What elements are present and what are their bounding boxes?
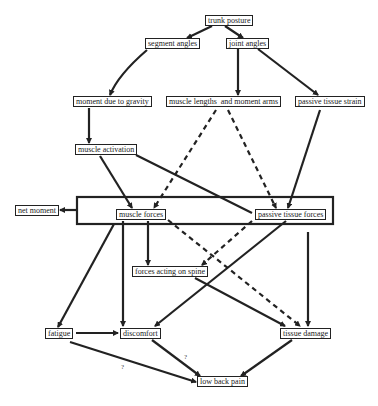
question-mark-discomfort-lbp: ? — [184, 353, 187, 361]
node-segment-angles: segment angles — [145, 38, 200, 49]
node-passive-tissue-strain: passive tissue strain — [295, 96, 365, 107]
edge-strain-to-passive-forces — [288, 110, 320, 208]
node-forces-acting-on-spine: forces acting on spine — [132, 266, 208, 277]
edge-lengths-to-passive-forces — [228, 110, 276, 208]
edge-trunk-to-joint — [225, 26, 243, 38]
edge-trunk-to-segment — [187, 26, 212, 38]
edge-lengths-to-muscle-forces — [154, 110, 216, 208]
node-passive-tissue-forces: passive tissue forces — [255, 209, 326, 220]
edge-segment-to-gravity — [110, 50, 147, 95]
node-fatigue: fatigue — [45, 328, 73, 339]
question-mark-fatigue-lbp: ? — [121, 363, 124, 371]
edge-muscle-to-fatigue — [58, 224, 114, 327]
edge-activation-to-muscle-forces — [100, 156, 132, 208]
node-joint-angles: joint angles — [226, 38, 269, 49]
edge-activation-to-passive-forces — [136, 155, 252, 213]
node-trunk-posture: trunk posture — [205, 15, 253, 26]
edge-joint-to-strain — [258, 49, 318, 95]
node-tissue-damage: tissue damage — [280, 328, 331, 339]
node-discomfort: discomfort — [120, 328, 161, 339]
node-moment-due-to-gravity: moment due to gravity — [73, 96, 152, 107]
edge-passive-to-spine — [202, 221, 252, 265]
edge-spine-to-tissue-damage — [195, 278, 285, 326]
edge-tissue-damage-to-lbp — [241, 340, 292, 376]
node-muscle-activation: muscle activation — [75, 144, 137, 155]
node-muscle-lengths-moment-arms: muscle lengths and moment arms — [166, 96, 281, 107]
node-low-back-pain: low back pain — [197, 376, 248, 387]
node-net-moment: net moment — [15, 205, 59, 216]
edge-fatigue-to-lbp — [70, 342, 196, 382]
node-muscle-forces: muscle forces — [116, 209, 166, 220]
edges-layer — [0, 0, 378, 406]
diagram-canvas: trunk posture segment angles joint angle… — [0, 0, 378, 406]
